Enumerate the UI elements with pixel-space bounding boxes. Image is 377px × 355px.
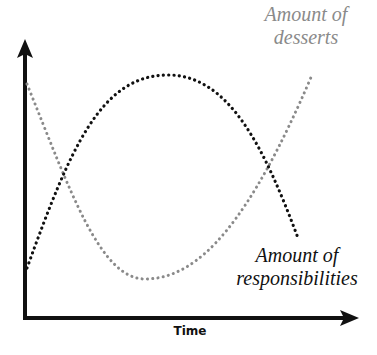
series-responsibilities-line: [27, 75, 298, 268]
legend-desserts-line1: Amount of: [236, 3, 376, 26]
legend-desserts-line2: desserts: [236, 26, 376, 49]
legend-label-desserts: Amount of desserts: [236, 3, 376, 49]
legend-resp-line1: Amount of: [222, 244, 372, 267]
legend-resp-line2: responsibilities: [222, 267, 372, 290]
chart-canvas: [0, 0, 377, 355]
legend-label-responsibilities: Amount of responsibilities: [222, 244, 372, 290]
x-axis-label: Time: [140, 324, 240, 338]
